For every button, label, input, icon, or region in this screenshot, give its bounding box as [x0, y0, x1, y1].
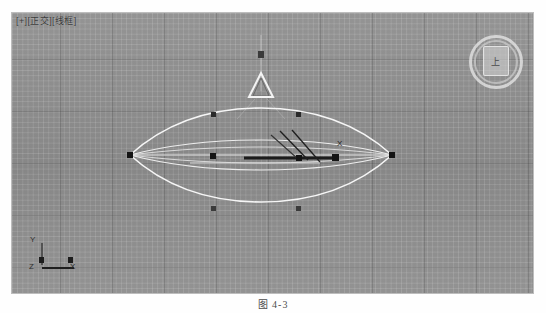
vertex-handle[interactable]	[389, 152, 395, 158]
axis-node-z	[39, 257, 44, 263]
view-cube[interactable]: 上	[469, 35, 523, 89]
view-cube-face-label: 上	[491, 55, 501, 68]
axis-label-y: Y	[30, 235, 35, 244]
axis-tripod: Y Z X	[30, 235, 86, 279]
vertex-handle[interactable]	[296, 206, 301, 211]
lens-outline-bottom	[130, 155, 392, 202]
vertex-handle[interactable]	[296, 112, 301, 117]
axis-tripod-lines	[30, 235, 86, 279]
viewport-orthographic[interactable]: [+][正交][线框]	[12, 13, 533, 293]
axis-label-z: Z	[29, 262, 34, 271]
view-cube-face[interactable]: 上	[483, 46, 509, 76]
vertex-handle[interactable]	[211, 206, 216, 211]
axis-label-x: X	[70, 262, 75, 271]
figure-root: [+][正交][线框]	[0, 0, 546, 313]
vertex-handle[interactable]	[211, 112, 216, 117]
scene-geometry: X	[12, 13, 533, 293]
selection-axis-label: X	[337, 139, 343, 148]
vertex-handle[interactable]	[332, 154, 339, 161]
figure-caption: 图 4-3	[0, 296, 546, 311]
vertex-handle[interactable]	[296, 155, 302, 161]
vertex-handle[interactable]	[210, 153, 216, 159]
vertex-handle[interactable]	[127, 152, 133, 158]
gizmo-stem-node	[258, 51, 264, 58]
